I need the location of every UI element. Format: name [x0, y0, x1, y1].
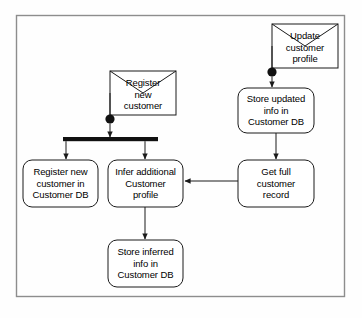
activity-store-updated-info	[238, 88, 314, 133]
activity-store-inferred-info	[108, 240, 183, 287]
uml-activity-diagram	[0, 0, 362, 318]
signal-register-new-customer	[110, 71, 176, 115]
fork-bar-register	[63, 137, 158, 141]
activity-get-full-customer-record	[238, 160, 314, 207]
activity-infer-additional-customer-profile	[108, 160, 183, 207]
signal-update-customer-profile	[272, 24, 338, 68]
initial-node-register	[105, 114, 114, 123]
activity-register-new-customer-in-db	[23, 160, 98, 207]
diagram-canvas: Update customer profile Register new cus…	[0, 0, 362, 318]
initial-node-update	[267, 67, 276, 76]
